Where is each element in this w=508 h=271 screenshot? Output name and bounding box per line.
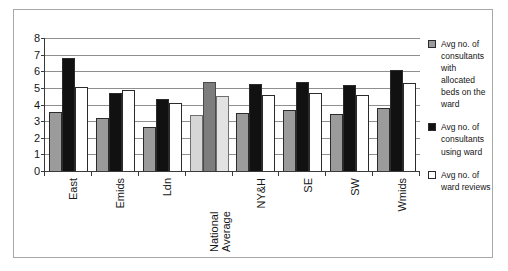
y-axis-tick-label: 3 (34, 116, 40, 127)
bar (296, 82, 309, 171)
bar (190, 115, 203, 171)
plot-wrapper: 012345678 EastEmidsLdnNational AverageNY… (14, 10, 424, 257)
bar (49, 112, 62, 171)
bar (262, 95, 275, 171)
x-axis-label-cell: East (44, 176, 91, 256)
legend-label: Avg no. of consultants using ward (441, 121, 492, 157)
x-axis-label-cell: SW (325, 176, 372, 256)
y-axis-tick-label: 5 (34, 82, 40, 93)
white-swatch (428, 171, 436, 179)
bar-group (326, 38, 373, 171)
bar (236, 113, 249, 171)
y-axis-tick-label: 1 (34, 149, 40, 160)
y-axis-tick-label: 4 (34, 99, 40, 110)
bar (109, 93, 122, 171)
bar (203, 82, 216, 171)
bar (377, 108, 390, 171)
bar (62, 58, 75, 171)
y-axis-tick-label: 0 (34, 166, 40, 177)
x-axis-label: National Average (208, 178, 233, 252)
x-axis-label-cell: National Average (185, 176, 232, 256)
bar (330, 114, 343, 171)
x-axis-label-cell: Ldn (138, 176, 185, 256)
chart-legend: Avg no. of consultants with allocated be… (428, 38, 492, 198)
bar-group (186, 38, 233, 171)
plot-area (44, 38, 420, 172)
x-axis-label: Wmids (396, 178, 408, 212)
x-axis-label: SW (349, 178, 361, 196)
chart-container: 012345678 EastEmidsLdnNational AverageNY… (13, 9, 493, 258)
x-axis-label: NY&H (255, 178, 267, 209)
x-axis-label-cell: SE (278, 176, 325, 256)
bar (403, 83, 416, 171)
legend-item: Avg no. of consultants using ward (428, 121, 492, 157)
bar (122, 90, 135, 171)
bar-group (373, 38, 420, 171)
bar (169, 103, 182, 171)
y-axis-tick-label: 7 (34, 49, 40, 60)
black-swatch (428, 123, 436, 131)
x-axis-label: East (67, 178, 79, 200)
y-axis-tick-label: 6 (34, 66, 40, 77)
bar (143, 127, 156, 171)
legend-item: Avg no. of ward reviews (428, 169, 492, 193)
bar (283, 110, 296, 171)
x-axis-tickmark (419, 171, 420, 176)
bar (390, 70, 403, 171)
x-axis-label-cell: Emids (91, 176, 138, 256)
bar (343, 85, 356, 171)
legend-label: Avg no. of consultants with allocated be… (441, 38, 492, 110)
bar (156, 99, 169, 171)
y-axis-tick-label: 8 (34, 33, 40, 44)
bar-group (92, 38, 139, 171)
bar (216, 96, 229, 171)
bar (309, 93, 322, 171)
x-axis-label: Emids (114, 178, 126, 209)
bar (249, 84, 262, 171)
bar-group (279, 38, 326, 171)
y-axis-tick-labels: 012345678 (24, 38, 40, 171)
x-axis-label: SE (302, 178, 314, 193)
legend-item: Avg no. of consultants with allocated be… (428, 38, 492, 110)
bar-group (45, 38, 92, 171)
bar (96, 118, 109, 171)
x-axis-label-cell: NY&H (232, 176, 279, 256)
x-axis-label: Ldn (161, 178, 173, 196)
y-axis-tick-label: 2 (34, 132, 40, 143)
x-axis-label-cell: Wmids (372, 176, 419, 256)
bar (75, 87, 88, 171)
bar-group (233, 38, 280, 171)
bars-layer (45, 38, 420, 171)
bar-group (139, 38, 186, 171)
x-axis-category-labels: EastEmidsLdnNational AverageNY&HSESWWmid… (44, 176, 419, 256)
bar (356, 95, 369, 171)
gray-swatch (428, 40, 436, 48)
legend-label: Avg no. of ward reviews (441, 169, 492, 193)
